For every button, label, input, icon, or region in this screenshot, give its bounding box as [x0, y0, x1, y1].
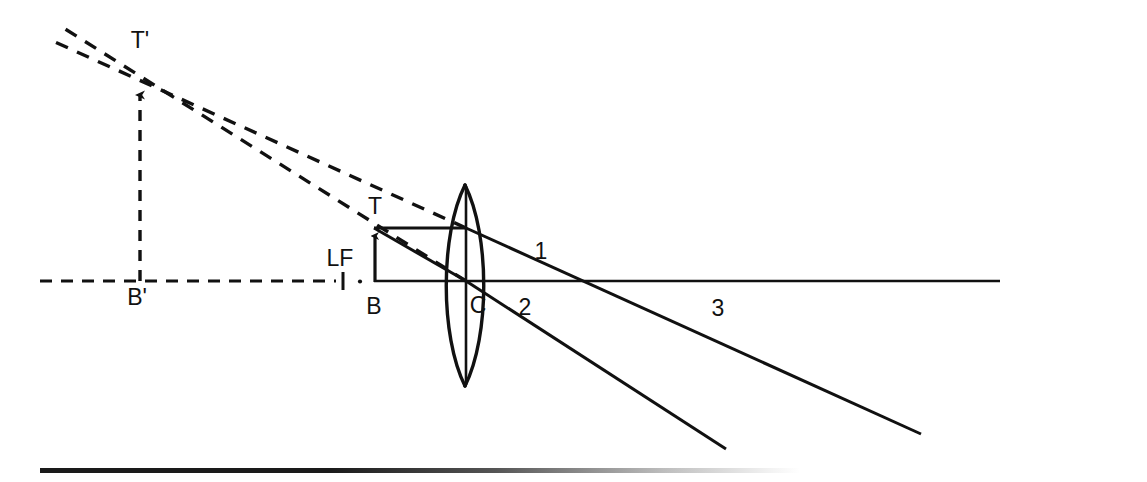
label-ray-1: 1 — [535, 238, 548, 264]
label-object-tip: T — [368, 193, 382, 219]
label-ray-2: 2 — [519, 294, 532, 320]
ray-2-refracted — [466, 281, 726, 449]
label-image-base: B' — [127, 284, 147, 310]
virtual-ray-extensions-group — [55, 27, 466, 281]
label-object-base: B — [366, 293, 381, 319]
ray-2-incident-through-centre — [374, 228, 466, 281]
optics-ray-diagram: T' B' T B C LF 1 2 3 — [0, 0, 1147, 482]
labels-group: T' B' T B C LF 1 2 3 — [127, 27, 724, 321]
virtual-ray-2-extension — [62, 27, 466, 281]
converging-lens-group — [446, 185, 484, 386]
focal-point-dot — [358, 279, 362, 283]
label-lens-centre: C — [470, 292, 487, 318]
ray-diagram-canvas: T' B' T B C LF 1 2 3 — [0, 0, 1147, 482]
lens-left-surface — [446, 185, 465, 386]
label-ray-3: 3 — [712, 295, 725, 321]
page-edge-bar — [40, 468, 800, 473]
label-focal-length: LF — [327, 245, 354, 271]
rays-group — [374, 228, 921, 449]
optical-axis-group — [40, 272, 1000, 290]
label-image-tip: T' — [131, 27, 149, 53]
virtual-ray-1-extension — [55, 42, 466, 228]
